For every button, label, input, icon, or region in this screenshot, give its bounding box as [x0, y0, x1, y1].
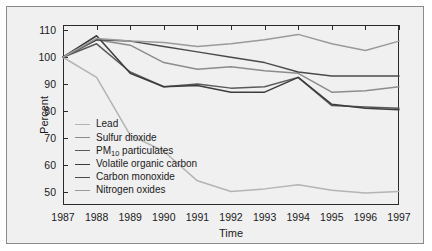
legend-item[interactable]: Volatile organic carbon: [75, 157, 197, 170]
x-tick-label: 1995: [320, 211, 343, 223]
x-axis-label: Time: [63, 227, 399, 239]
legend-item-label: Nitrogen oxides: [96, 185, 165, 195]
y-tick-label: 50: [44, 186, 63, 198]
x-tick-mark: [399, 25, 400, 30]
legend-color-swatch: [75, 137, 90, 138]
x-tick-label: 1989: [119, 211, 142, 223]
x-tick-label: 1997: [387, 211, 410, 223]
y-tick-label: 100: [38, 51, 63, 63]
legend-color-swatch: [75, 190, 90, 191]
plot-area: 1101009080706050 19871988198919901991199…: [63, 25, 399, 205]
legend-item[interactable]: Lead: [75, 118, 197, 131]
chart-figure: 1101009080706050 19871988198919901991199…: [6, 6, 424, 244]
legend-item[interactable]: Sulfur dioxide: [75, 131, 197, 144]
y-tick-label: 90: [44, 78, 63, 90]
legend-color-swatch: [75, 124, 90, 125]
legend-item-label: Lead: [96, 119, 118, 129]
legend-item[interactable]: Nitrogen oxides: [75, 184, 197, 197]
x-tick-label: 1993: [253, 211, 276, 223]
chart-legend: LeadSulfur dioxidePM10 particulatesVolat…: [75, 118, 197, 197]
y-tick-label: 110: [39, 24, 63, 36]
y-tick-label: 60: [44, 159, 63, 171]
legend-color-swatch: [75, 150, 90, 151]
legend-item-label: Sulfur dioxide: [96, 133, 157, 143]
legend-color-swatch: [75, 177, 90, 178]
x-tick-label: 1987: [51, 211, 74, 223]
legend-item-label: Volatile organic carbon: [96, 159, 197, 169]
x-tick-label: 1988: [85, 211, 108, 223]
legend-item-label: PM10 particulates: [96, 146, 173, 156]
x-tick-label: 1991: [186, 211, 209, 223]
legend-item[interactable]: Carbon monoxide: [75, 171, 197, 184]
legend-color-swatch: [75, 164, 90, 165]
legend-item-label: Carbon monoxide: [96, 172, 175, 182]
y-axis-label: Percent: [38, 96, 50, 134]
x-tick-label: 1990: [152, 211, 175, 223]
x-tick-label: 1996: [354, 211, 377, 223]
legend-item[interactable]: PM10 particulates: [75, 144, 197, 157]
x-tick-label: 1992: [219, 211, 242, 223]
x-tick-label: 1994: [287, 211, 310, 223]
